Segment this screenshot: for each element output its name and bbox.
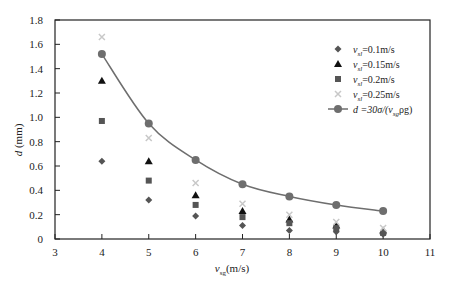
circle-marker — [98, 50, 106, 58]
x-tick-label: 6 — [193, 246, 199, 258]
y-tick-label: 0.8 — [29, 136, 43, 148]
square-marker — [240, 214, 246, 220]
data-series — [98, 158, 386, 238]
triangle-marker — [239, 207, 247, 214]
square-marker — [335, 76, 341, 82]
legend: vsl=0.1m/svsl=0.15m/svsl=0.2m/svsl=0.25m… — [328, 44, 412, 118]
y-tick-label: 1.8 — [29, 14, 43, 26]
axis-labels: d (mm)vsg(m/s) — [12, 123, 250, 277]
diamond-marker — [335, 46, 342, 53]
cross-marker — [193, 180, 199, 186]
legend-label: vsl=0.15m/s — [353, 59, 400, 73]
cross-marker — [146, 135, 152, 141]
x-tick-label: 10 — [378, 246, 390, 258]
y-tick-label: 1.4 — [29, 63, 43, 75]
y-tick-label: 1.6 — [29, 38, 43, 50]
data-series — [98, 50, 387, 215]
circle-marker — [332, 201, 340, 209]
y-tick-label: 0.6 — [29, 160, 43, 172]
legend-item: vsl=0.2m/s — [335, 74, 395, 88]
circle-marker — [379, 207, 387, 215]
diamond-marker — [98, 158, 105, 165]
triangle-marker — [98, 77, 106, 84]
legend-item: vsl=0.25m/s — [335, 89, 400, 103]
cross-marker — [335, 91, 341, 97]
circle-marker — [285, 192, 293, 200]
triangle-marker — [145, 157, 153, 164]
legend-item: vsl=0.15m/s — [334, 59, 400, 73]
triangle-marker — [334, 60, 342, 67]
cross-marker — [240, 201, 246, 207]
x-tick-label: 11 — [425, 246, 436, 258]
x-tick-label: 7 — [240, 246, 246, 258]
square-marker — [193, 202, 199, 208]
y-tick-label: 0.4 — [29, 184, 43, 196]
y-tick-label: 0 — [38, 233, 44, 245]
y-tick-label: 1.0 — [29, 111, 43, 123]
y-tick-label: 1.2 — [29, 87, 43, 99]
circle-marker — [145, 119, 153, 127]
legend-item: vsl=0.1m/s — [335, 44, 395, 58]
legend-label: vsl=0.1m/s — [353, 44, 395, 58]
x-axis-label: vsg(m/s) — [215, 262, 250, 277]
y-axis-label: d (mm) — [12, 123, 25, 156]
diamond-marker — [192, 212, 199, 219]
square-marker — [333, 225, 339, 231]
circle-marker — [192, 156, 200, 164]
cross-marker — [99, 34, 105, 40]
square-marker — [146, 178, 152, 184]
x-tick-label: 4 — [99, 246, 105, 258]
diamond-marker — [145, 197, 152, 204]
legend-label: d =30σ/(vsgρg) — [353, 104, 412, 118]
legend-label: vsl=0.25m/s — [353, 89, 400, 103]
x-tick-label: 8 — [287, 246, 293, 258]
legend-label: vsl=0.2m/s — [353, 74, 395, 88]
data-series — [99, 118, 386, 236]
data-series — [98, 77, 387, 234]
diamond-marker — [286, 227, 293, 234]
circle-marker — [334, 105, 342, 113]
x-tick-label: 5 — [146, 246, 152, 258]
y-tick-label: 0.2 — [29, 209, 43, 221]
square-marker — [99, 118, 105, 124]
diamond-marker — [239, 222, 246, 229]
x-tick-label: 3 — [52, 246, 58, 258]
square-marker — [286, 220, 292, 226]
circle-marker — [239, 180, 247, 188]
data-series — [99, 34, 386, 231]
legend-item: d =30σ/(vsgρg) — [328, 104, 412, 118]
triangle-marker — [192, 191, 200, 198]
chart: 00.20.40.60.81.01.21.41.61.834567891011 … — [0, 0, 450, 289]
plot-series — [98, 34, 387, 238]
x-tick-label: 9 — [334, 246, 340, 258]
